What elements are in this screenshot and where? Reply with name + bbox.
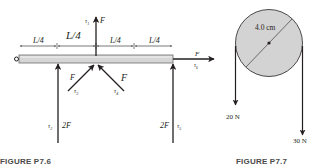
dim-label-3: L/4	[109, 36, 121, 45]
beam	[19, 55, 173, 63]
dim-label-1: L/4	[32, 36, 44, 45]
pivot-icon	[15, 57, 19, 61]
dim-label-2: L/4	[65, 29, 81, 41]
physics-figures: L/4 L/4 L/4 L/4 τ1 F τ2 2F F τ3 F τ4 2F …	[0, 0, 328, 168]
label-tau2: τ2	[48, 123, 52, 131]
label-tau5: τ5	[177, 123, 181, 131]
label-F4: F	[120, 72, 128, 83]
diameter-label: 4.0 cm	[255, 23, 276, 32]
figure-p7-6: L/4 L/4 L/4 L/4 τ1 F τ2 2F F τ3 F τ4 2F …	[0, 16, 214, 166]
label-2F-left: 2F	[62, 121, 71, 130]
label-F3: F	[69, 73, 75, 82]
caption-p7-6: FIGURE P7.6	[0, 157, 51, 166]
label-30N: 30 N	[293, 137, 307, 145]
axle-dot	[267, 41, 270, 44]
label-tau3: τ3	[74, 88, 78, 96]
label-tau6: τ6	[194, 62, 198, 70]
label-tau4: τ4	[114, 88, 118, 96]
label-F6: F	[194, 50, 200, 58]
caption-p7-7: FIGURE P7.7	[236, 157, 287, 166]
label-20N: 20 N	[226, 113, 240, 121]
dim-label-4: L/4	[148, 36, 160, 45]
figure-p7-7: 4.0 cm 20 N 30 N FIGURE P7.7	[226, 10, 307, 167]
label-tau1: τ1	[85, 18, 89, 26]
label-F1: F	[99, 16, 105, 25]
label-2F-right: 2F	[160, 121, 169, 130]
